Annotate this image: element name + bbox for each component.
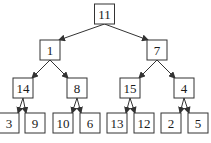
edge-15-to-13 bbox=[126, 98, 130, 113]
tree-node: 4 bbox=[174, 78, 194, 98]
edge-14-to-3 bbox=[18, 98, 23, 113]
node-label: 7 bbox=[154, 43, 161, 58]
edge-15-to-12 bbox=[130, 98, 135, 113]
node-label: 13 bbox=[111, 116, 124, 131]
edges-layer bbox=[18, 24, 189, 113]
tree-node: 9 bbox=[25, 113, 45, 133]
nodes-layer: 111143981067151312425 bbox=[0, 4, 208, 133]
edge-1-to-8 bbox=[50, 60, 68, 78]
node-label: 14 bbox=[17, 81, 31, 96]
tree-node: 2 bbox=[161, 113, 181, 133]
node-label: 15 bbox=[124, 81, 137, 96]
node-label: 1 bbox=[47, 43, 54, 58]
tree-node: 15 bbox=[120, 78, 140, 98]
node-label: 10 bbox=[57, 116, 70, 131]
tree-node: 14 bbox=[13, 78, 33, 98]
edge-8-to-10 bbox=[72, 98, 77, 113]
tree-node: 12 bbox=[134, 113, 154, 133]
edge-14-to-9 bbox=[23, 98, 26, 113]
node-label: 6 bbox=[87, 116, 94, 131]
tree-node: 6 bbox=[80, 113, 100, 133]
tree-node: 7 bbox=[147, 40, 167, 60]
tree-diagram: 111143981067151312425 bbox=[0, 0, 211, 143]
edge-4-to-5 bbox=[184, 98, 189, 113]
node-label: 9 bbox=[32, 116, 39, 131]
node-label: 11 bbox=[98, 7, 111, 22]
tree-node: 10 bbox=[53, 113, 73, 133]
tree-node: 5 bbox=[188, 113, 208, 133]
tree-node: 8 bbox=[67, 78, 87, 98]
tree-node: 3 bbox=[0, 113, 19, 133]
node-label: 5 bbox=[195, 116, 202, 131]
edge-11-to-7 bbox=[105, 24, 149, 40]
edge-8-to-6 bbox=[77, 98, 81, 113]
node-label: 4 bbox=[181, 81, 188, 96]
tree-node: 1 bbox=[40, 40, 60, 60]
tree-node: 13 bbox=[107, 113, 127, 133]
node-label: 12 bbox=[138, 116, 151, 131]
tree-node: 11 bbox=[95, 4, 115, 24]
node-label: 8 bbox=[74, 81, 81, 96]
edge-4-to-2 bbox=[180, 98, 184, 113]
node-label: 3 bbox=[6, 116, 13, 131]
edge-11-to-1 bbox=[59, 24, 105, 40]
node-label: 2 bbox=[168, 116, 175, 131]
edge-7-to-4 bbox=[157, 60, 175, 78]
edge-7-to-15 bbox=[139, 60, 157, 78]
edge-1-to-14 bbox=[32, 60, 50, 78]
